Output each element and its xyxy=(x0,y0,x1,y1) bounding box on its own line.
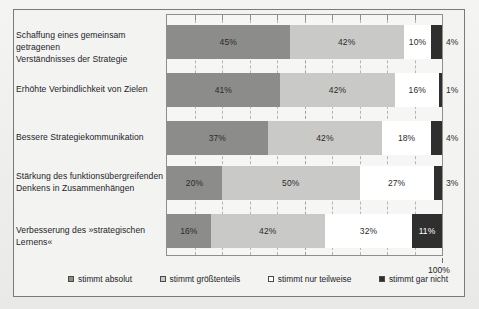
bar-segment-label: 42% xyxy=(338,37,355,47)
bar-row: 45%42%10%4% xyxy=(167,25,442,59)
bar-segment-label: 32% xyxy=(360,226,377,236)
category-label: Schaffung eines gemeinsam getragenenVers… xyxy=(16,29,164,65)
legend-label: stimmt absolut xyxy=(78,274,132,284)
bar-segment-label: 1% xyxy=(446,85,459,95)
axis-tick xyxy=(415,15,416,20)
bar-segment: 3% xyxy=(434,166,442,200)
bar-segment: 4% xyxy=(431,121,442,155)
bar-segment-label: 27% xyxy=(388,178,405,188)
category-label: Bessere Strategiekommunikation xyxy=(16,131,164,143)
bar-segment-label: 42% xyxy=(316,133,333,143)
axis-tick xyxy=(332,15,333,20)
category-label-line: Stärkung des funktionsübergreifenden xyxy=(16,170,164,182)
bar-segment-label: 4% xyxy=(446,37,459,47)
category-label-line: Bessere Strategiekommunikation xyxy=(16,131,164,143)
bar-segment: 42% xyxy=(211,214,325,248)
legend-swatch-icon xyxy=(268,276,274,282)
bar-segment: 42% xyxy=(290,25,404,59)
category-label-line: Schaffung eines gemeinsam getragenen xyxy=(16,29,164,53)
bar-segment-label: 16% xyxy=(409,85,426,95)
bar-segment-label: 45% xyxy=(220,37,237,47)
chart-area: Schaffung eines gemeinsam getragenenVers… xyxy=(13,9,465,297)
category-label: Erhöhte Verbindlichkeit von Zielen xyxy=(16,83,164,95)
bar-segment-label: 16% xyxy=(180,226,197,236)
bar-segment-label: 20% xyxy=(186,178,203,188)
legend-item[interactable]: stimmt größtenteils xyxy=(160,274,241,284)
bar-segment-label: 50% xyxy=(282,178,299,188)
category-label-line: Denkens in Zusammenhängen xyxy=(16,182,164,194)
category-label: Stärkung des funktionsübergreifendenDenk… xyxy=(16,170,164,194)
bar-segment: 16% xyxy=(395,73,439,107)
chart-page: Schaffung eines gemeinsam getragenenVers… xyxy=(0,0,479,309)
bar-segment: 18% xyxy=(382,121,431,155)
bar-row: 20%50%27%3% xyxy=(167,166,442,200)
category-label: Verbesserung des »strategischen Lernens« xyxy=(16,224,164,248)
bar-segment: 1% xyxy=(439,73,442,107)
bar-segment-label: 10% xyxy=(409,37,426,47)
bar-segment: 10% xyxy=(404,25,431,59)
bar-row: 37%42%18%4% xyxy=(167,121,442,155)
bar-segment: 41% xyxy=(167,73,280,107)
bar-segment: 42% xyxy=(268,121,382,155)
plot-area: 45%42%10%4%41%42%16%1%37%42%18%4%20%50%2… xyxy=(166,14,443,256)
category-label-line: Erhöhte Verbindlichkeit von Zielen xyxy=(16,83,164,95)
category-label-line: Verständnisses der Strategie xyxy=(16,53,164,65)
bar-segment: 32% xyxy=(325,214,412,248)
legend-item[interactable]: stimmt gar nicht xyxy=(379,274,448,284)
bar-segment: 37% xyxy=(167,121,268,155)
bar-segment: 16% xyxy=(167,214,211,248)
axis-ticks xyxy=(167,15,442,21)
bar-segment-label: 37% xyxy=(209,133,226,143)
bar-segment: 27% xyxy=(360,166,434,200)
axis-tick xyxy=(222,15,223,20)
category-label-line: Verbesserung des »strategischen Lernens« xyxy=(16,224,164,248)
axis-tick xyxy=(277,15,278,20)
axis-tick xyxy=(305,15,306,20)
legend-item[interactable]: stimmt nur teilweise xyxy=(268,274,352,284)
bar-segment: 4% xyxy=(431,25,442,59)
axis-end-tick xyxy=(442,258,443,263)
bar-segment-label: 42% xyxy=(329,85,346,95)
axis-tick xyxy=(360,15,361,20)
bar-row: 16%42%32%11% xyxy=(167,214,442,248)
bar-segment: 11% xyxy=(412,214,442,248)
legend-item[interactable]: stimmt absolut xyxy=(68,274,132,284)
bar-segment-label: 41% xyxy=(215,85,232,95)
bar-segment-label: 18% xyxy=(398,133,415,143)
legend-swatch-icon xyxy=(68,276,74,282)
chart-legend: stimmt absolutstimmt größtenteilsstimmt … xyxy=(68,274,448,284)
bar-segment: 50% xyxy=(222,166,360,200)
axis-tick xyxy=(195,15,196,20)
bar-segment-label: 11% xyxy=(419,226,436,236)
bar-segment-label: 42% xyxy=(259,226,276,236)
axis-tick xyxy=(250,15,251,20)
axis-tick xyxy=(387,15,388,20)
bar-segment-label: 4% xyxy=(446,133,459,143)
legend-label: stimmt größtenteils xyxy=(170,274,241,284)
bar-segment: 45% xyxy=(167,25,290,59)
bar-segment: 20% xyxy=(167,166,222,200)
legend-label: stimmt nur teilweise xyxy=(278,274,352,284)
bar-segment: 42% xyxy=(280,73,396,107)
bar-row: 41%42%16%1% xyxy=(167,73,442,107)
legend-swatch-icon xyxy=(379,276,385,282)
legend-swatch-icon xyxy=(160,276,166,282)
bar-segment-label: 3% xyxy=(446,178,459,188)
legend-label: stimmt gar nicht xyxy=(389,274,448,284)
